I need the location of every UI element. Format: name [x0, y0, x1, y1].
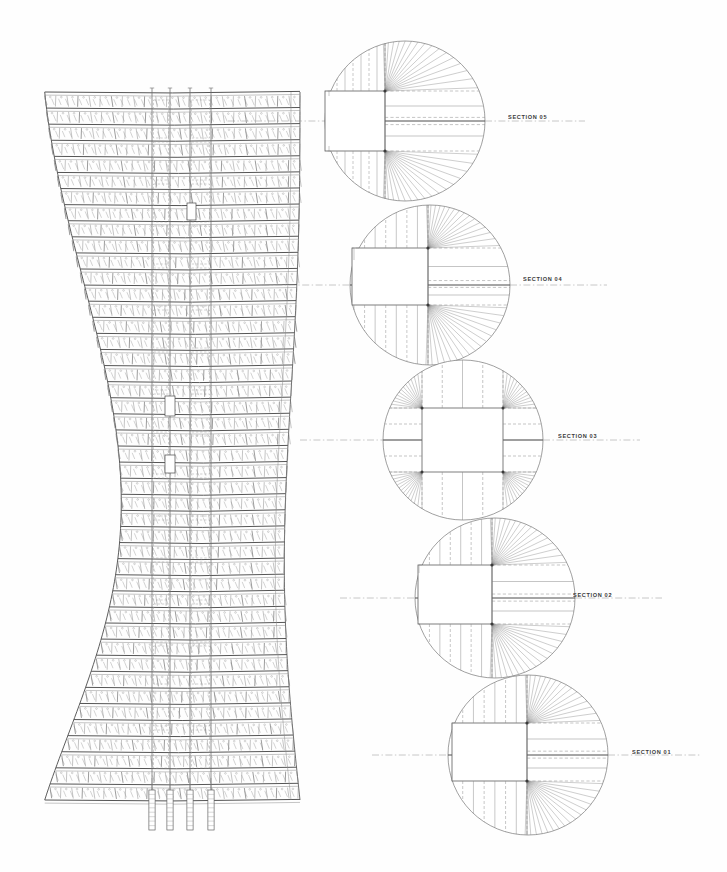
spandrel-node [223, 290, 225, 292]
spandrel-node [148, 740, 150, 742]
floor-slab-under [47, 110, 300, 112]
spandrel-node [156, 338, 158, 340]
spandrel-node [147, 258, 149, 260]
facade-mullion [187, 483, 189, 494]
facade-brace [216, 276, 219, 282]
spandrel-node [249, 225, 251, 227]
floor-slab-under [104, 368, 292, 370]
spandrel-node [185, 435, 187, 437]
facade-brace [198, 292, 201, 298]
facade-brace [238, 115, 241, 121]
facade-brace [218, 791, 221, 797]
facade-brace [141, 276, 144, 282]
facade-brace [213, 679, 216, 685]
spandrel-node [173, 789, 175, 791]
spandrel-node [111, 724, 113, 726]
spandrel-node [100, 756, 102, 758]
facade-brace [259, 99, 262, 105]
facade-brace [234, 743, 237, 749]
core-rectangle [352, 248, 428, 305]
spandrel-node [268, 499, 270, 501]
facade-brace [76, 131, 79, 137]
spandrel-node [283, 418, 285, 420]
facade-brace [102, 196, 105, 202]
facade-brace [270, 260, 273, 266]
facade-mullion [239, 756, 241, 767]
floor-slab-under [121, 529, 285, 531]
facade-brace [188, 550, 191, 556]
facade-brace [251, 791, 254, 797]
spandrel-node [137, 354, 139, 356]
facade-brace [128, 517, 131, 523]
spandrel-node [191, 531, 193, 533]
facade-brace [183, 502, 186, 508]
spandrel-node [84, 177, 86, 179]
facade-mullion [160, 322, 162, 333]
spandrel-node [196, 193, 198, 195]
facade-mullion [149, 370, 151, 381]
facade-brace [217, 228, 220, 234]
facade-mullion [109, 209, 111, 220]
facade-brace [273, 115, 276, 121]
facade-brace [244, 614, 247, 620]
spandrel-node [84, 113, 86, 115]
facade-brace [74, 115, 77, 121]
core-shaft-cell [192, 646, 210, 684]
core-rectangle [325, 91, 385, 151]
facade-brace [202, 630, 205, 636]
facade-brace [266, 646, 269, 652]
facade-brace [135, 501, 138, 507]
floor-slab [93, 317, 296, 319]
spandrel-node [174, 129, 176, 131]
spandrel-node [269, 257, 271, 259]
spandrel-node [278, 579, 280, 581]
facade-brace [236, 276, 239, 282]
facade-brace [279, 646, 282, 652]
spandrel-node [251, 692, 253, 694]
spandrel-node [240, 145, 242, 147]
facade-mullion [273, 321, 275, 332]
spandrel-node [257, 772, 259, 774]
facade-brace [220, 743, 223, 749]
facade-brace [283, 710, 286, 716]
spandrel-node [242, 370, 244, 372]
spandrel-node [130, 789, 132, 791]
facade-mullion [202, 241, 204, 252]
facade-brace [159, 598, 162, 604]
facade-brace [231, 614, 234, 620]
facade-brace [65, 147, 68, 153]
spandrel-node [246, 595, 248, 597]
facade-mullion [209, 772, 211, 783]
facade-brace [144, 341, 147, 347]
spandrel-node [173, 419, 175, 421]
spandrel-node [146, 547, 148, 549]
facade-brace [143, 614, 146, 620]
facade-brace [174, 695, 177, 701]
spandrel-node [99, 145, 101, 147]
facade-brace [173, 679, 176, 685]
facade-mullion [232, 273, 234, 284]
facade-brace [113, 212, 116, 218]
spandrel-node [165, 579, 167, 581]
facade-brace [273, 485, 276, 491]
facade-brace [224, 469, 227, 475]
facade-mullion [212, 177, 214, 188]
spandrel-node [212, 354, 214, 356]
spandrel-node [171, 161, 173, 163]
facade-brace [278, 388, 281, 394]
spandrel-node [219, 692, 221, 694]
spandrel-node [95, 177, 97, 179]
facade-brace [252, 115, 255, 121]
spandrel-node [250, 434, 252, 436]
facade-brace [245, 646, 248, 652]
spandrel-node [272, 129, 274, 131]
facade-brace [278, 614, 281, 620]
spandrel-node [224, 515, 226, 517]
facade-brace [148, 276, 151, 282]
spandrel-node [129, 676, 131, 678]
facade-brace [162, 518, 165, 524]
section-label-section-05: SECTION 05 [508, 114, 547, 120]
facade-brace [287, 742, 290, 748]
spandrel-node [92, 209, 94, 211]
facade-brace [176, 727, 179, 733]
